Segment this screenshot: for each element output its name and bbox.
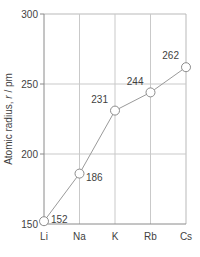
y-tick-label-150: 150 [21, 219, 38, 230]
data-point-li[interactable] [40, 217, 49, 226]
data-label-na: 186 [86, 172, 103, 183]
y-axis-title-after: / pm [3, 73, 14, 95]
vertical-gridlines [80, 14, 151, 224]
data-label-li: 152 [51, 214, 68, 225]
data-point-na[interactable] [75, 169, 84, 178]
y-tick-label-250: 250 [21, 79, 38, 90]
y-tick-label-200: 200 [21, 149, 38, 160]
data-label-k: 231 [91, 94, 108, 105]
data-point-cs[interactable] [182, 63, 191, 72]
y-axis-title-before: Atomic radius, [3, 99, 14, 165]
x-label-na: Na [73, 231, 86, 242]
x-label-k: K [112, 231, 119, 242]
y-tick-labels: 300 250 200 150 [21, 9, 38, 230]
y-tick-label-300: 300 [21, 9, 38, 20]
x-label-cs: Cs [180, 231, 192, 242]
atomic-radius-line-chart: 300 250 200 150 Atomic radius, r / pm 15… [0, 0, 200, 257]
data-point-rb[interactable] [146, 88, 155, 97]
x-label-li: Li [40, 231, 48, 242]
data-label-rb: 244 [127, 76, 144, 87]
y-axis-title: Atomic radius, r / pm [3, 73, 14, 165]
y-axis [40, 14, 44, 224]
chart-container: 300 250 200 150 Atomic radius, r / pm 15… [0, 0, 200, 257]
x-tick-labels: Li Na K Rb Cs [40, 231, 192, 242]
data-point-k[interactable] [111, 106, 120, 115]
x-label-rb: Rb [144, 231, 157, 242]
y-axis-title-text: Atomic radius, r / pm [3, 73, 14, 165]
data-label-cs: 262 [162, 50, 179, 61]
